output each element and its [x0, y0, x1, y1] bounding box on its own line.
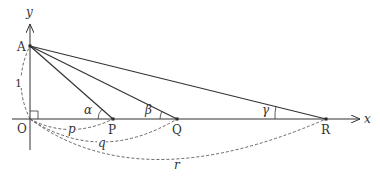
angle-alpha-label: α	[84, 103, 92, 117]
segment-AQ	[30, 46, 177, 119]
length-arc-OA	[21, 46, 30, 119]
y-axis-label: y	[25, 5, 33, 19]
angle-arc-beta	[160, 111, 162, 119]
segment-AR	[30, 46, 326, 119]
segments	[30, 46, 326, 119]
angle-gamma-label: γ	[262, 103, 270, 117]
length-OP-label: p	[68, 122, 76, 136]
angle-arc-gamma	[275, 106, 276, 119]
segment-AP	[30, 46, 113, 119]
right-angle-mark	[30, 111, 38, 119]
point-R-label: R	[321, 123, 331, 137]
angle-arcs	[98, 106, 276, 119]
point-A-label: A	[16, 40, 26, 54]
length-OA-label: 1	[15, 77, 22, 90]
length-OQ-label: q	[98, 136, 106, 150]
length-arcs	[21, 46, 326, 160]
angle-arc-alpha	[98, 109, 102, 119]
point-P-label: P	[108, 123, 116, 137]
x-axis-label: x	[364, 112, 371, 126]
angle-beta-label: β	[144, 103, 152, 117]
point-O-label: O	[17, 122, 27, 136]
geometry-diagram: x y α β γ A O P Q R 1 p q r	[0, 0, 380, 181]
point-Q-label: Q	[172, 123, 182, 137]
